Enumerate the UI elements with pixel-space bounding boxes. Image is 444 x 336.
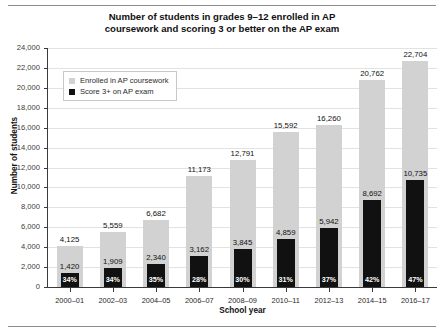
bar-group: 20,7628,69242% bbox=[359, 48, 385, 287]
chart-title-line-1: Number of students in grades 9–12 enroll… bbox=[109, 11, 336, 22]
x-tick-mark bbox=[415, 287, 416, 292]
y-tick-mark bbox=[44, 168, 48, 169]
legend-item-score3plus: Score 3+ on AP exam bbox=[69, 86, 169, 97]
bar-value-label-enrolled: 11,173 bbox=[172, 165, 226, 174]
y-tick-mark bbox=[44, 148, 48, 149]
bottom-divider bbox=[8, 326, 436, 327]
x-tick-mark bbox=[329, 287, 330, 292]
y-tick-label: 12,000 bbox=[0, 163, 40, 172]
x-axis-title: School year bbox=[48, 306, 437, 315]
x-tick-label: 2016–17 bbox=[385, 296, 444, 305]
y-tick-label: 24,000 bbox=[0, 43, 40, 52]
bar-value-label-enrolled: 5,559 bbox=[86, 221, 140, 230]
bar-value-label-score3plus: 3,845 bbox=[216, 238, 270, 247]
y-tick-mark bbox=[44, 68, 48, 69]
x-tick-mark bbox=[113, 287, 114, 292]
bar-value-label-enrolled: 20,762 bbox=[345, 69, 399, 78]
y-tick-label: 22,000 bbox=[0, 63, 40, 72]
bar-group: 12,7913,84530% bbox=[230, 48, 256, 287]
y-tick-label: 14,000 bbox=[0, 143, 40, 152]
bar-value-label-score3plus: 5,942 bbox=[302, 217, 356, 226]
bar-percent-label: 37% bbox=[320, 275, 338, 284]
y-tick-mark bbox=[44, 128, 48, 129]
y-tick-label: 4,000 bbox=[0, 242, 40, 251]
x-tick-mark bbox=[243, 287, 244, 292]
y-tick-mark bbox=[44, 88, 48, 89]
bar-percent-label: 28% bbox=[190, 275, 208, 284]
bar-value-label-score3plus: 8,692 bbox=[345, 189, 399, 198]
bar-score3plus[interactable] bbox=[406, 180, 424, 287]
y-tick-label: 20,000 bbox=[0, 83, 40, 92]
bar-value-label-enrolled: 6,682 bbox=[129, 209, 183, 218]
bar-percent-label: 30% bbox=[234, 275, 252, 284]
chart-title-line-2: coursework and scoring 3 or better on th… bbox=[105, 23, 340, 34]
x-tick-mark bbox=[286, 287, 287, 292]
bar-value-label-enrolled: 12,791 bbox=[216, 149, 270, 158]
bar-percent-label: 31% bbox=[277, 275, 295, 284]
y-tick-label: 16,000 bbox=[0, 123, 40, 132]
bar-group: 15,5924,85931% bbox=[273, 48, 299, 287]
bar-percent-label: 34% bbox=[104, 275, 122, 284]
bar-value-label-enrolled: 4,125 bbox=[43, 235, 97, 244]
y-tick-label: 8,000 bbox=[0, 202, 40, 211]
y-tick-mark bbox=[44, 247, 48, 248]
bar-percent-label: 35% bbox=[147, 275, 165, 284]
y-tick-label: 6,000 bbox=[0, 222, 40, 231]
y-tick-label: 2,000 bbox=[0, 262, 40, 271]
x-tick-mark bbox=[199, 287, 200, 292]
bar-value-label-score3plus: 2,340 bbox=[129, 253, 183, 262]
bar-group: 16,2605,94237% bbox=[316, 48, 342, 287]
bar-percent-label: 42% bbox=[363, 275, 381, 284]
top-divider bbox=[8, 5, 436, 6]
legend-swatch-enrolled-icon bbox=[69, 78, 75, 84]
y-tick-label: 18,000 bbox=[0, 103, 40, 112]
chart-title: Number of students in grades 9–12 enroll… bbox=[62, 11, 382, 36]
bar-value-label-enrolled: 22,704 bbox=[388, 50, 442, 59]
bar-group: 22,70410,73547% bbox=[402, 48, 428, 287]
chart-legend: Enrolled in AP coursework Score 3+ on AP… bbox=[63, 71, 177, 101]
bar-percent-label: 34% bbox=[61, 275, 79, 284]
legend-swatch-score3plus-icon bbox=[69, 89, 75, 95]
y-tick-label: 0 bbox=[0, 282, 40, 291]
y-tick-mark bbox=[44, 108, 48, 109]
legend-item-enrolled: Enrolled in AP coursework bbox=[69, 75, 169, 86]
bar-value-label-enrolled: 16,260 bbox=[302, 114, 356, 123]
bar-percent-label: 47% bbox=[406, 275, 424, 284]
y-tick-mark bbox=[44, 187, 48, 188]
x-tick-mark bbox=[70, 287, 71, 292]
y-axis-title: Number of students bbox=[10, 96, 19, 216]
y-tick-label: 10,000 bbox=[0, 182, 40, 191]
y-tick-mark bbox=[44, 48, 48, 49]
bar-value-label-score3plus: 10,735 bbox=[388, 169, 442, 178]
y-tick-mark bbox=[44, 287, 48, 288]
legend-label-enrolled: Enrolled in AP coursework bbox=[80, 76, 169, 85]
y-tick-mark bbox=[44, 227, 48, 228]
x-tick-mark bbox=[156, 287, 157, 292]
chart-figure: Number of students in grades 9–12 enroll… bbox=[0, 0, 444, 336]
bar-value-label-score3plus: 4,859 bbox=[259, 228, 313, 237]
bar-group: 11,1733,16228% bbox=[186, 48, 212, 287]
y-tick-mark bbox=[44, 207, 48, 208]
x-tick-mark bbox=[372, 287, 373, 292]
legend-label-score3plus: Score 3+ on AP exam bbox=[80, 87, 154, 96]
